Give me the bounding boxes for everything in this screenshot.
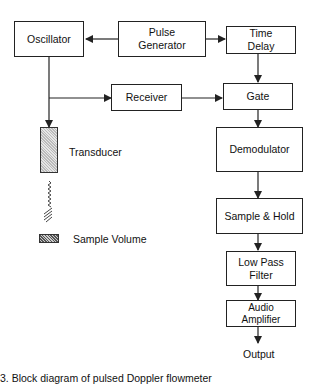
low-pass-filter-label-2: Filter [249,269,272,282]
receiver-block: Receiver [111,84,182,111]
demodulator-label: Demodulator [229,143,289,156]
demodulator-block: Demodulator [216,127,303,172]
gate-label: Gate [247,90,270,103]
pulse-generator-label-1: Pulse [149,26,175,39]
audio-amplifier-label-1: Audio [248,302,274,314]
time-delay-block: Time Delay [226,26,296,54]
sample-hold-block: Sample & Hold [216,198,303,234]
low-pass-filter-block: Low Pass Filter [226,251,296,286]
transducer-icon [40,127,58,173]
receiver-label: Receiver [126,91,167,104]
audio-amplifier-label-2: Amplifier [242,314,281,326]
low-pass-filter-label-1: Low Pass [238,256,284,269]
oscillator-block: Oscillator [14,21,84,57]
sample-volume-label: Sample Volume [73,233,147,245]
gate-block: Gate [223,83,293,110]
time-delay-label-2: Delay [248,40,275,53]
pulse-generator-block: Pulse Generator [118,21,206,57]
output-label: Output [243,348,275,360]
time-delay-label-1: Time [250,27,273,40]
oscillator-label: Oscillator [27,33,71,46]
figure-caption: 3. Block diagram of pulsed Doppler flowm… [0,372,212,384]
audio-amplifier-block: Audio Amplifier [226,300,296,327]
sample-hold-label: Sample & Hold [224,210,294,223]
sample-volume-swatch-icon [39,234,59,243]
pulse-generator-label-2: Generator [138,39,185,52]
beam-path [48,181,51,207]
transducer-label: Transducer [69,146,122,158]
